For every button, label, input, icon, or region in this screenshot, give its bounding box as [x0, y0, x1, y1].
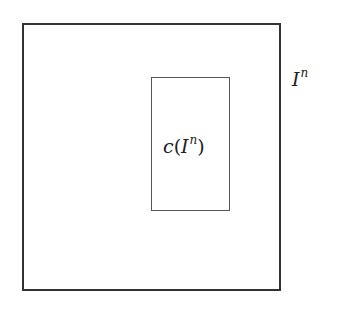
inner-rect-label: c(In)	[163, 137, 205, 156]
label-open-paren: (	[174, 135, 181, 157]
label-function: c	[163, 135, 174, 157]
label-close-paren: )	[197, 135, 204, 157]
label-base: I	[181, 135, 189, 157]
outer-square-label: In	[292, 70, 308, 89]
label-exponent: n	[190, 133, 198, 147]
label-exponent: n	[301, 66, 309, 80]
label-base: I	[292, 68, 300, 90]
diagram-canvas: In c(In)	[0, 0, 337, 313]
